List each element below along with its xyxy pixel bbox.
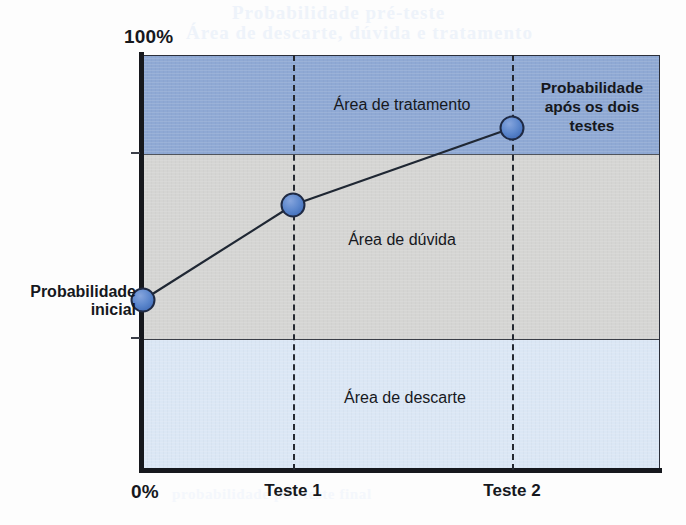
annotation-final-probability: Probabilidade após os dois testes — [523, 78, 661, 135]
bleed-through-text-line: Probabilidade pré-teste — [232, 2, 445, 24]
band-label-discard: Área de descarte — [344, 389, 466, 407]
y-axis-tick-discard-threshold — [131, 337, 140, 339]
band-label-treatment: Área de tratamento — [334, 96, 471, 114]
annotation-initial-probability-line2: inicial — [0, 301, 136, 319]
x-axis-label-origin: 0% — [131, 481, 159, 503]
annotation-initial-probability: Probabilidade inicial — [0, 283, 136, 319]
band-label-doubt: Área de dúvida — [348, 231, 456, 249]
x-axis-label-teste-2: Teste 2 — [483, 481, 540, 501]
annotation-initial-probability-line1: Probabilidade — [0, 283, 136, 301]
vline-teste-2 — [512, 55, 514, 470]
y-axis-label-100: 100% — [124, 26, 173, 48]
y-axis — [139, 52, 144, 473]
annotation-final-probability-line2: após os dois — [523, 97, 661, 116]
bleed-through-text-line: Área de descarte, dúvida e tratamento — [186, 22, 533, 44]
annotation-final-probability-line1: Probabilidade — [523, 78, 661, 97]
vline-teste-1 — [293, 55, 295, 470]
y-axis-tick-treatment-threshold — [131, 152, 140, 154]
x-axis — [139, 468, 662, 473]
probability-threshold-figure: Probabilidade pré-teste Área de descarte… — [0, 0, 686, 525]
annotation-final-probability-line3: testes — [523, 116, 661, 135]
x-axis-label-teste-1: Teste 1 — [264, 481, 321, 501]
